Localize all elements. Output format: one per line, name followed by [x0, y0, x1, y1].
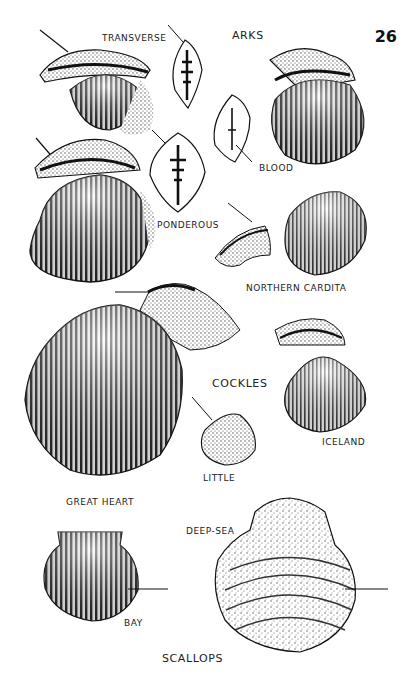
label-transverse: TRANSVERSE	[102, 33, 166, 43]
little-cockle-illustration	[192, 397, 255, 465]
hinge-outline-ponderous	[150, 130, 205, 212]
label-northern-cardita: NORTHERN CARDITA	[246, 283, 346, 293]
label-iceland: ICELAND	[322, 437, 365, 447]
page-number: 26	[375, 27, 397, 46]
hinge-outline-transverse	[168, 25, 202, 108]
label-ponderous: PONDEROUS	[157, 220, 219, 230]
label-little: LITTLE	[203, 473, 235, 483]
shell-illustrations	[0, 0, 409, 692]
heading-cockles: COCKLES	[212, 377, 268, 390]
heading-scallops: SCALLOPS	[162, 652, 223, 665]
northern-cardita-illustration	[215, 192, 366, 275]
deep-sea-scallop-illustration	[215, 498, 388, 652]
label-great-heart: GREAT HEART	[66, 497, 134, 507]
transverse-ark-illustration	[40, 30, 153, 135]
blood-ark-illustration	[270, 49, 364, 164]
hinge-outline-blood	[214, 95, 252, 162]
label-deep-sea: DEEP-SEA	[186, 526, 234, 536]
bay-scallop-illustration	[44, 532, 168, 621]
heading-arks: ARKS	[232, 29, 264, 42]
label-blood: BLOOD	[259, 163, 293, 173]
label-bay: BAY	[124, 618, 143, 628]
iceland-cockle-illustration	[275, 319, 366, 432]
ponderous-ark-illustration	[30, 138, 156, 282]
